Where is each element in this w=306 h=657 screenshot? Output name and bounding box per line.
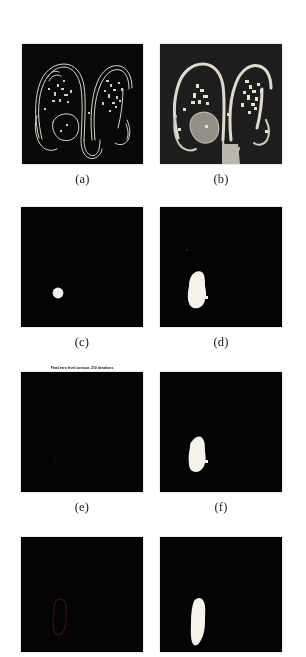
panel-caption-f: (f) — [160, 500, 282, 515]
binary-mask-svg-d — [160, 207, 282, 327]
panel-caption-b: (b) — [160, 172, 282, 187]
init-circle-blob-c — [53, 288, 64, 299]
mri-contour-svg-a — [22, 44, 143, 164]
panel-image-d — [160, 207, 282, 327]
gray-region-b — [190, 112, 219, 143]
panel-cell-d: (d) — [160, 207, 282, 355]
panel-cell-b: (b) — [160, 44, 282, 192]
panel-cell-g — [21, 537, 143, 657]
panel-cell-e: Final zero level contour, 210 iterations… — [21, 372, 143, 520]
panel-cell-a: (a) — [22, 44, 143, 192]
binary-mask-svg-g — [21, 537, 143, 652]
faint-speck-d — [186, 249, 188, 251]
panel-caption-e: (e) — [21, 500, 143, 515]
binary-mask-svg-f — [160, 372, 282, 492]
panel-image-h — [160, 537, 282, 652]
panel-image-a — [22, 44, 143, 164]
panel-image-c — [21, 207, 143, 327]
panel-caption-a: (a) — [22, 172, 143, 187]
panel-image-g — [21, 537, 143, 652]
binary-mask-svg-c — [21, 207, 143, 327]
panel-cell-h — [160, 537, 282, 657]
binary-mask-svg-h — [160, 537, 282, 652]
panel-title-e: Final zero level contour, 210 iterations — [20, 366, 144, 371]
mri-segmentation-svg-b — [160, 44, 282, 164]
panel-caption-c: (c) — [21, 335, 143, 350]
binary-mask-svg-e — [21, 372, 143, 492]
panel-image-b — [160, 44, 282, 164]
panel-image-e — [21, 372, 143, 492]
panel-caption-d: (d) — [160, 335, 282, 350]
panel-image-f — [160, 372, 282, 492]
panel-cell-f: (f) — [160, 372, 282, 520]
panel-cell-c: (c) — [21, 207, 143, 355]
